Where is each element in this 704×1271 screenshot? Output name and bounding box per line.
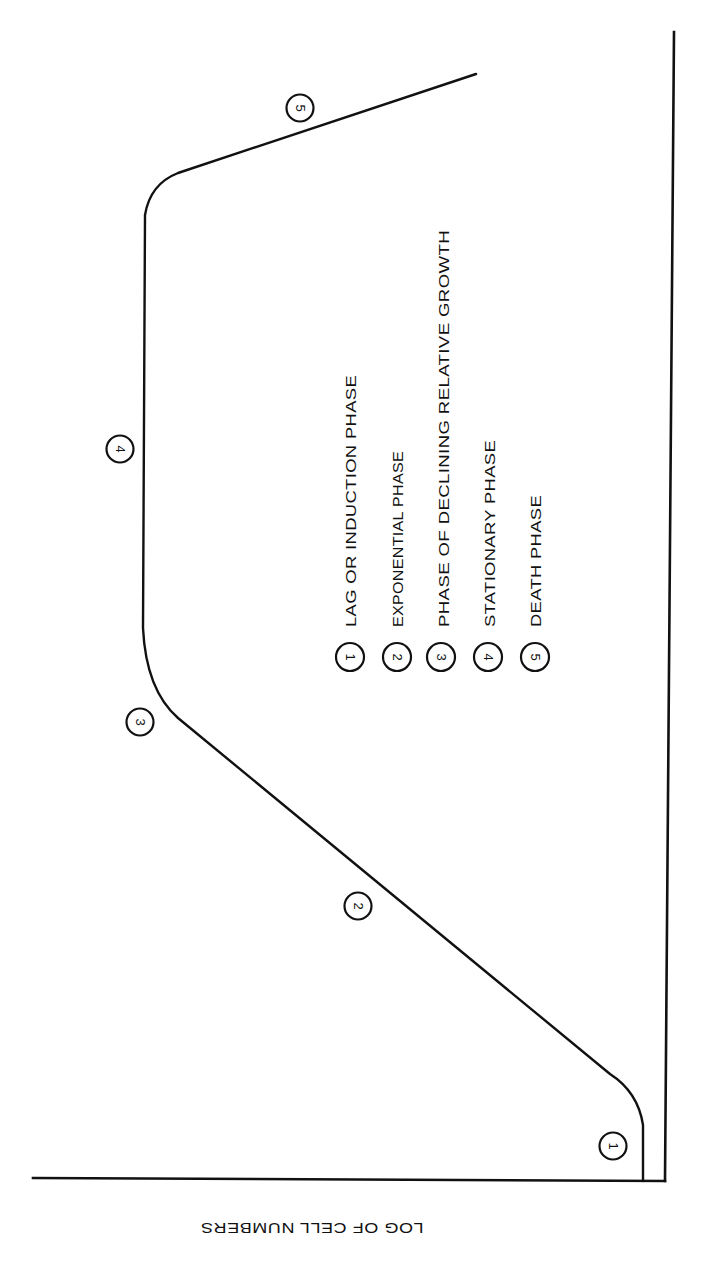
legend-item-exponential: 2 [383,643,411,671]
legend-number: 1 [343,653,358,660]
legend-label-death: DEATH PHASE [527,495,544,627]
curve-marker-number: 1 [606,1142,621,1149]
curve-marker-3: 3 [127,709,154,736]
legend-number: 4 [481,653,496,660]
legend-number: 2 [390,653,405,660]
curve-marker-number: 5 [293,104,308,111]
legend-item-lag: 1 [336,643,364,671]
legend-label-stationary: STATIONARY PHASE [481,440,498,627]
curve-marker-number: 2 [351,902,366,909]
curve-marker-number: 3 [133,718,148,725]
legend-label-declining: PHASE OF DECLINING RELATIVE GROWTH [435,230,452,627]
legend-number: 5 [528,653,543,660]
legend-item-stationary: 4 [474,643,502,671]
legend-item-death: 5 [521,643,549,671]
legend-label-exponential: EXPONENTIAL PHASE [389,451,406,627]
legend-label-lag: LAG OR INDUCTION PHASE [342,375,359,627]
curve-marker-5: 5 [287,95,314,122]
log-cell-axis-line [33,1178,665,1181]
curve-marker-number: 4 [113,445,128,452]
curve-marker-4: 4 [107,436,134,463]
legend-item-declining: 3 [427,643,455,671]
legend: 1 2 3 4 5 LAG OR INDUCTION PHASE EXPONEN… [336,230,549,671]
curve-marker-2: 2 [345,893,372,920]
growth-curve-chart: 1 2 3 4 5 1 2 3 4 [0,0,704,1271]
legend-number: 3 [434,653,449,660]
curve-marker-1: 1 [600,1133,627,1160]
log-cell-numbers-axis-label: LOG OF CELL NUMBERS [201,1220,424,1237]
time-axis-line [665,32,674,1181]
